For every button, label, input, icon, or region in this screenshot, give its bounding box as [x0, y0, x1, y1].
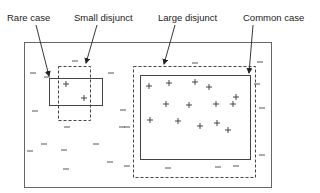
positive-example-icon	[197, 123, 203, 129]
negative-examples	[27, 61, 265, 169]
positive-example-icon	[192, 79, 198, 85]
positive-example-icon	[230, 101, 236, 107]
positive-example-icon	[166, 80, 172, 86]
positive-example-icon	[213, 101, 219, 107]
arrow-large-disjunct	[164, 25, 175, 64]
large-disjunct-box	[134, 67, 256, 178]
positive-example-icon	[214, 120, 220, 126]
disjunct-diagram	[0, 0, 320, 193]
positive-example-icon	[186, 102, 192, 108]
arrow-rare-case	[36, 25, 49, 76]
positive-example-icon	[163, 101, 169, 107]
positive-example-icon	[175, 118, 181, 124]
common-case-box	[141, 76, 251, 160]
positive-example-icon	[147, 117, 153, 123]
positive-example-icon	[63, 81, 69, 87]
arrow-small-disjunct	[86, 25, 97, 63]
positive-example-icon	[81, 95, 87, 101]
rare-case-box	[50, 79, 103, 106]
positive-example-icon	[233, 94, 239, 100]
arrow-common-case	[249, 25, 253, 73]
positive-example-icon	[206, 84, 212, 90]
positive-example-icon	[146, 83, 152, 89]
positive-example-icon	[225, 127, 231, 133]
small-disjunct-box	[59, 67, 91, 121]
